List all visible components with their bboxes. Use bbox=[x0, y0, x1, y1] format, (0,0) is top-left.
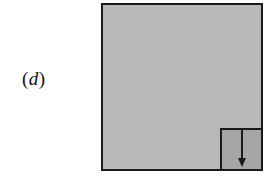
outer-square bbox=[101, 3, 263, 171]
panel-label: (d) bbox=[22, 68, 46, 90]
down-arrow-icon bbox=[240, 130, 243, 169]
label-open-paren: ( bbox=[22, 68, 29, 89]
label-close-paren: ) bbox=[39, 68, 46, 89]
label-variable: d bbox=[29, 68, 39, 89]
inner-box bbox=[220, 128, 261, 169]
